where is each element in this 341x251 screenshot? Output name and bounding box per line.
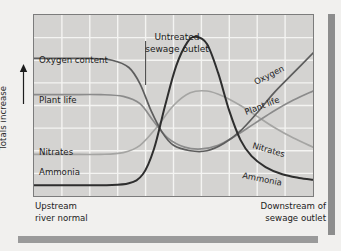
caption-upstream: Upstream river normal — [35, 201, 88, 224]
outlet-annotation-line1: Untreated — [129, 31, 225, 43]
caption-downstream: Downstream of sewage outlet — [261, 201, 326, 224]
y-axis-label: Totals increase — [0, 58, 10, 178]
curve-label-left-2: Nitrates — [39, 147, 74, 157]
decorative-horizontal-rule — [18, 236, 318, 243]
curve-label-right-1: Plant life — [243, 94, 281, 116]
outlet-annotation: Untreated sewage outlet — [129, 31, 225, 55]
y-axis-arrow-icon — [19, 64, 28, 104]
decorative-vertical-rule — [328, 14, 335, 235]
curve-label-left-3: Ammonia — [39, 167, 80, 177]
outlet-annotation-line2: sewage outlet — [129, 43, 225, 55]
curve-label-left-0: Oxygen content — [39, 55, 108, 65]
figure-page: Totals increase Oxygen contentPlant life… — [0, 0, 341, 251]
plot-area: Oxygen contentPlant lifeNitratesAmmoniaO… — [33, 14, 314, 197]
curve-label-left-1: Plant life — [39, 95, 76, 105]
